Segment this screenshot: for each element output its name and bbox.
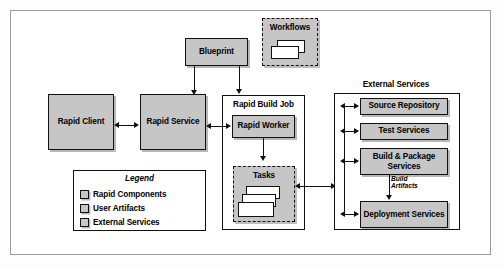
- workflow-sheet-front: [271, 46, 299, 59]
- node-rapid-worker-label: Rapid Worker: [238, 122, 290, 131]
- arrowhead-to-rapid-service-right: [206, 123, 211, 129]
- legend-item-rapid-components: Rapid Components: [80, 190, 166, 199]
- arrowhead-bus-build-package-right: [354, 158, 359, 164]
- legend-label-rapid-components: Rapid Components: [93, 190, 166, 199]
- edge-tasks-external-services: [298, 186, 334, 187]
- arrowhead-to-tasks: [295, 183, 300, 189]
- external-services-title: External Services: [332, 80, 460, 89]
- arrowhead-bus-build-package-left: [340, 158, 345, 164]
- node-deployment-services-label: Deployment Services: [364, 210, 445, 219]
- diagram-canvas: Blueprint Workflows Rapid Client Rapid S…: [0, 0, 503, 268]
- arrowhead-bus-test-services-left: [340, 128, 345, 134]
- node-rapid-service: Rapid Service: [140, 94, 206, 150]
- edge-label-build-artifacts: Build Artifacts: [391, 176, 427, 190]
- external-services-bus-lower: [344, 202, 345, 215]
- task-sheet-front: [238, 202, 274, 217]
- node-test-services-label: Test Services: [379, 127, 430, 136]
- node-build-package-services-label: Build & Package Services: [361, 152, 447, 170]
- node-rapid-client: Rapid Client: [48, 94, 114, 150]
- arrowhead-bus-deployment-right: [354, 211, 359, 217]
- node-tasks: Tasks: [233, 166, 295, 222]
- arrowhead-blueprint-to-rapid-build-job: [236, 89, 242, 94]
- legend-label-user-artifacts: User Artifacts: [93, 204, 145, 213]
- legend-swatch-rapid-components: [80, 190, 89, 199]
- legend-swatch-user-artifacts: [80, 204, 89, 213]
- node-build-package-services: Build & Package Services: [360, 148, 448, 175]
- node-tasks-label: Tasks: [234, 171, 294, 180]
- edge-blueprint-to-rapid-build-job: [239, 66, 240, 90]
- node-rapid-worker: Rapid Worker: [232, 115, 295, 138]
- arrowhead-to-rapid-client: [114, 122, 119, 128]
- arrowhead-bus-test-services-right: [354, 128, 359, 134]
- edge-blueprint-to-rapid-service: [194, 66, 195, 91]
- container-rapid-build-job-label: Rapid Build Job: [222, 100, 305, 109]
- legend-item-user-artifacts: User Artifacts: [80, 204, 145, 213]
- node-test-services: Test Services: [360, 123, 448, 140]
- edge-build-artifacts: [389, 175, 390, 197]
- node-deployment-services: Deployment Services: [360, 201, 448, 228]
- arrowhead-rapid-worker-to-tasks: [260, 156, 266, 161]
- arrowhead-to-rapid-worker: [226, 123, 231, 129]
- node-rapid-service-label: Rapid Service: [147, 118, 200, 127]
- legend-title: Legend: [73, 174, 206, 183]
- legend-label-external-services: External Services: [93, 218, 160, 227]
- node-blueprint: Blueprint: [185, 38, 248, 66]
- node-workflows: Workflows: [262, 18, 318, 66]
- arrowhead-bus-source-repository-right: [354, 103, 359, 109]
- arrowhead-to-rapid-service-left: [134, 122, 139, 128]
- arrowhead-build-artifacts: [386, 195, 392, 200]
- node-blueprint-label: Blueprint: [199, 48, 234, 57]
- legend-swatch-external-services: [80, 218, 89, 227]
- node-source-repository-label: Source Repository: [368, 102, 439, 111]
- arrowhead-bus-source-repository-left: [340, 103, 345, 109]
- node-workflows-label: Workflows: [263, 23, 317, 32]
- edge-rapid-worker-to-tasks: [263, 138, 264, 158]
- node-rapid-client-label: Rapid Client: [58, 118, 105, 127]
- node-source-repository: Source Repository: [360, 98, 448, 115]
- legend-item-external-services: External Services: [80, 218, 160, 227]
- external-services-bus: [344, 104, 345, 202]
